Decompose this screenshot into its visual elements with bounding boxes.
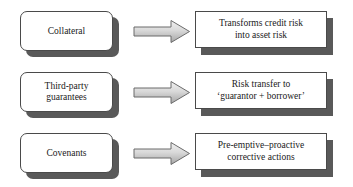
source-box-line-2: guarantees [46,92,87,102]
target-box-transforms-credit-risk[interactable]: Transforms credit risk into asset risk [195,11,327,48]
target-box-label: Transforms credit risk into asset risk [216,18,306,41]
source-box-covenants[interactable]: Covenants [20,133,113,173]
target-box-risk-transfer[interactable]: Risk transfer to ‘guarantor + borrower’ [195,72,327,109]
right-arrow-icon [133,141,191,166]
target-box-line-1: Risk transfer to [232,79,291,89]
target-box-line-1: Transforms credit risk [219,18,303,28]
source-box-label: Collateral [45,26,88,37]
target-box-label: Pre-emptive–proactive corrective actions [215,140,308,163]
target-box-preemptive-proactive[interactable]: Pre-emptive–proactive corrective actions [195,133,327,170]
source-box-collateral[interactable]: Collateral [20,11,113,51]
right-arrow-icon [133,80,191,105]
source-box-label: Third-party guarantees [42,81,92,103]
flow-row-collateral: Collateral Transforms credit risk into a… [0,2,353,62]
target-box-label: Risk transfer to ‘guarantor + borrower’ [214,79,308,102]
target-box-line-2: into asset risk [235,30,287,40]
source-box-line-1: Covenants [46,148,86,158]
credit-risk-mitigation-diagram: Collateral Transforms credit risk into a… [0,0,353,187]
source-box-third-party-guarantees[interactable]: Third-party guarantees [20,72,113,112]
flow-row-third-party-guarantees: Third-party guarantees Risk transfer to [0,63,353,123]
right-arrow-icon [133,19,191,44]
target-box-line-2: ‘guarantor + borrower’ [217,91,305,101]
source-box-label: Covenants [43,148,89,159]
target-box-line-2: corrective actions [227,152,294,162]
source-box-line-1: Collateral [48,26,85,36]
flow-row-covenants: Covenants Pre-emptive–proactive correcti… [0,124,353,184]
target-box-line-1: Pre-emptive–proactive [218,140,305,150]
source-box-line-1: Third-party [45,81,89,91]
